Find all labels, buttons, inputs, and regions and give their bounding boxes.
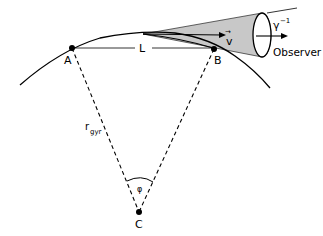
point-b [211,46,217,52]
label-v: v [226,35,233,48]
point-c [136,209,142,215]
radius-line-a [72,48,139,212]
label-a: A [64,54,72,67]
synchrotron-diagram: A B C L r gyr φ v → γ −1 Observer [0,0,323,236]
label-c: C [135,218,143,231]
cone-upper-line [267,8,297,13]
label-l: L [139,42,146,55]
angle-arc [127,178,153,182]
gamma-arrowhead [281,33,288,39]
point-a [69,45,75,51]
label-observer: Observer [273,46,322,58]
label-v-arrow: → [225,28,231,36]
label-b: B [214,54,222,67]
radius-line-b [139,49,214,212]
label-r-sub: gyr [90,128,102,136]
label-gamma: γ [273,19,280,32]
label-gamma-exp: −1 [280,17,290,25]
label-angle: φ [137,185,142,194]
cone-base-ellipse [253,13,271,57]
